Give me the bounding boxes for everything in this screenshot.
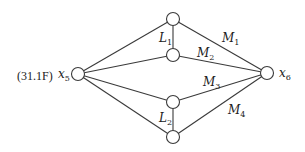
graph-diagram: (31.1F) x5 x6 L1 L2 M1 M2 M3 M4 <box>0 0 305 152</box>
edge-label-L1: L1 <box>158 31 172 47</box>
edge-label-M2: M2 <box>196 46 214 62</box>
node-label-x5: x5 <box>58 67 70 83</box>
edge-label-M4: M4 <box>227 103 245 119</box>
node-top <box>167 13 180 26</box>
edge-M1 <box>173 19 267 73</box>
edge-M2 <box>173 55 267 73</box>
edge-x5-upper-mid <box>78 55 173 74</box>
equation-label: (31.1F) <box>17 69 53 83</box>
node-bottom <box>167 131 180 144</box>
node-x5 <box>72 68 85 81</box>
edge-label-M3: M3 <box>202 75 220 91</box>
node-lower-mid <box>167 96 180 109</box>
edge-label-L2: L2 <box>158 111 172 127</box>
edge-x5-top <box>78 19 173 74</box>
node-upper-mid <box>167 49 180 62</box>
edge-x5-bottom <box>78 74 173 137</box>
node-label-x6: x6 <box>279 66 291 82</box>
edge-label-M1: M1 <box>221 31 239 47</box>
node-x6 <box>261 67 274 80</box>
edge-x5-lower-mid <box>78 74 173 102</box>
